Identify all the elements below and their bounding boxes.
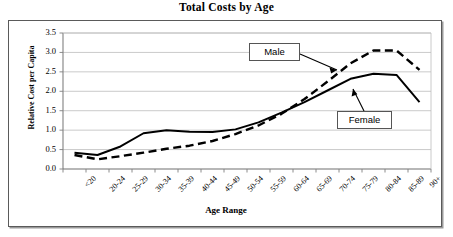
x-axis-title: Age Range bbox=[9, 205, 443, 215]
annotation-leader-lines bbox=[300, 54, 364, 111]
annotation-female: Female bbox=[337, 111, 392, 129]
chart-title: Total Costs by Age bbox=[0, 1, 453, 13]
chart-frame: Relative Cost per Capita 0.00.51.01.52.0… bbox=[8, 20, 442, 227]
chart-root: Total Costs by Age Relative Cost per Cap… bbox=[0, 0, 453, 237]
series-lines bbox=[75, 50, 420, 159]
annotation-male: Male bbox=[249, 43, 300, 61]
male-leader-arrow bbox=[300, 54, 337, 70]
axis-lines bbox=[63, 33, 431, 169]
